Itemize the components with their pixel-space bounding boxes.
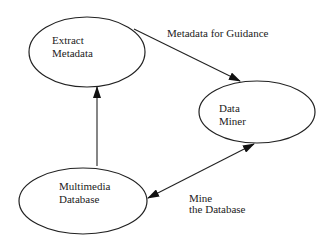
extract-metadata-label-line2: Metadata xyxy=(52,47,93,59)
node-multimedia-database: Multimedia Database xyxy=(19,168,147,234)
edge-extract-to-miner: Metadata for Guidance xyxy=(134,27,269,81)
data-miner-label-line2: Miner xyxy=(219,115,246,127)
double-arrow-mine-the-database xyxy=(148,144,254,198)
edge-database-miner: Mine the Database xyxy=(148,144,254,215)
diagram-canvas: Extract Metadata Data Miner Multimedia D… xyxy=(0,0,332,246)
extract-metadata-label-line1: Extract xyxy=(52,34,84,46)
multimedia-database-label-line2: Database xyxy=(59,193,99,205)
node-extract-metadata: Extract Metadata xyxy=(29,17,145,87)
edge-label-metadata-for-guidance: Metadata for Guidance xyxy=(167,27,269,39)
data-miner-label-line1: Data xyxy=(219,102,240,114)
multimedia-database-label-line1: Multimedia xyxy=(59,180,110,192)
data-miner-ellipse xyxy=(199,81,315,143)
edge-label-mine-line2: the Database xyxy=(189,203,246,215)
node-data-miner: Data Miner xyxy=(199,81,315,143)
